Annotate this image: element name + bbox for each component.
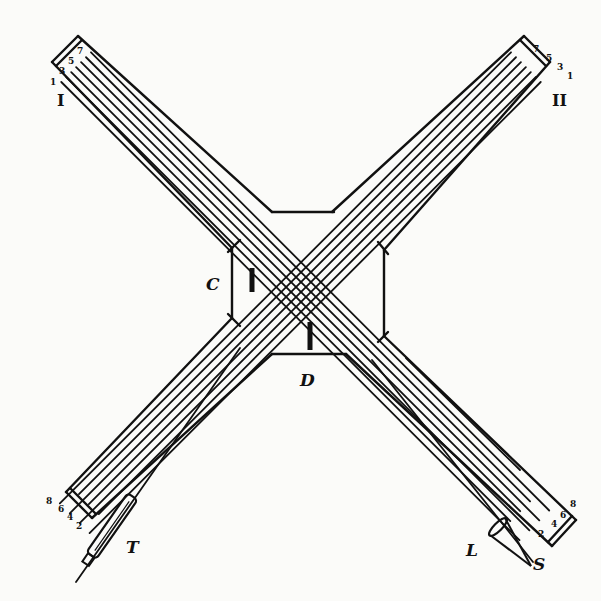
- ray-number: 8: [570, 499, 576, 509]
- lens-label-l: L: [465, 540, 478, 560]
- ray-line: [60, 52, 511, 503]
- telescope-axis: [95, 501, 129, 550]
- ray-line: [76, 67, 520, 511]
- ray-line: [70, 62, 521, 513]
- telescope-label-t: T: [126, 537, 140, 557]
- tube-label-ii: II: [552, 91, 567, 110]
- ray-line: [91, 52, 549, 510]
- ray-line: [81, 62, 539, 520]
- ray-line: [61, 82, 519, 540]
- source-label-s: S: [533, 554, 545, 574]
- ray-line: [99, 77, 536, 514]
- ray-line: [79, 57, 516, 494]
- ray-number: 3: [59, 66, 65, 76]
- ray-number: 1: [567, 71, 573, 81]
- ray-number: 2: [538, 529, 544, 539]
- ray-number: 4: [67, 512, 73, 522]
- ray-number: 6: [58, 504, 64, 514]
- ray-number: 4: [551, 519, 557, 529]
- ray-number: 6: [560, 510, 566, 520]
- beam-to-telescope: [76, 348, 240, 582]
- ray-number: 7: [533, 44, 539, 54]
- ray-line: [71, 72, 529, 530]
- ray-line: [89, 67, 526, 504]
- tube-label-i: I: [57, 91, 64, 110]
- light-cone-edge: [505, 518, 531, 566]
- screen-label-d: D: [299, 370, 315, 390]
- ray-number: 1: [50, 77, 56, 87]
- ray-number: 3: [557, 62, 563, 72]
- crossed-tubes-diagram: I II C D T L S 1 3 5 7 7 5 3 1 8 6 4 2 2…: [0, 0, 601, 601]
- ray-line: [80, 72, 531, 523]
- ray-line: [66, 77, 510, 521]
- ray-number: 5: [68, 56, 74, 66]
- ray-number: 5: [546, 53, 552, 63]
- ray-number: 2: [76, 521, 82, 531]
- diagram: I II C D T L S 1 3 5 7 7 5 3 1 8 6 4 2 2…: [0, 0, 601, 601]
- beam-to-source: [372, 360, 533, 562]
- screen-label-c: C: [206, 274, 220, 294]
- ray-number: 8: [46, 496, 52, 506]
- ray-line: [86, 57, 530, 501]
- ray-number: 7: [77, 46, 83, 56]
